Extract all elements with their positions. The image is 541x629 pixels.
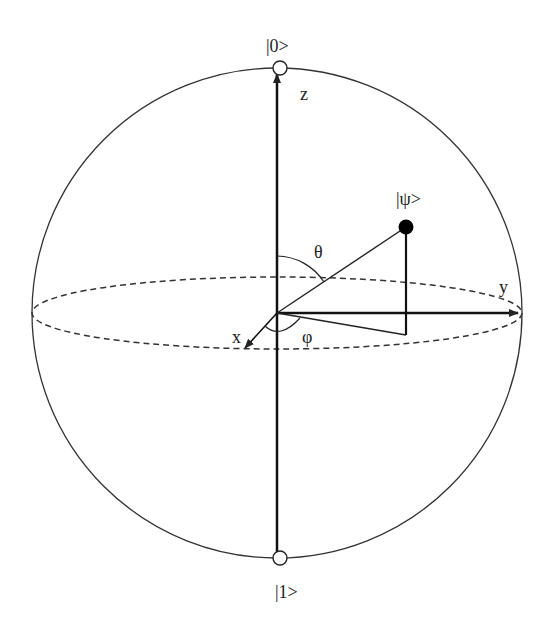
north-pole-marker	[273, 61, 287, 75]
north-state-label: |0>	[266, 36, 289, 56]
x-axis-label: x	[232, 327, 241, 347]
state-point	[399, 220, 414, 235]
z-axis-label: z	[300, 84, 308, 104]
y-axis-label: y	[499, 277, 508, 297]
projection-horizontal	[277, 313, 406, 335]
bloch-sphere-diagram: |0> |1> |ψ> z y x θ φ	[0, 0, 541, 629]
phi-label: φ	[302, 327, 312, 347]
theta-label: θ	[314, 242, 323, 262]
south-state-label: |1>	[275, 582, 298, 602]
south-pole-marker	[273, 551, 287, 565]
state-label: |ψ>	[396, 189, 421, 209]
state-vector	[277, 227, 406, 313]
